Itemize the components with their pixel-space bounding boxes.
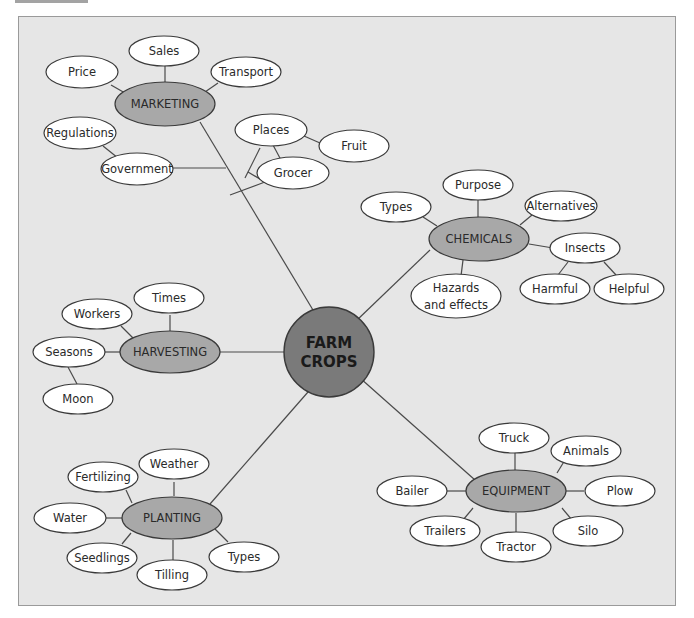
leaf-fruit[interactable]: Fruit (319, 130, 389, 162)
leaf-water[interactable]: Water (34, 503, 106, 533)
category-marketing-label: MARKETING (131, 97, 200, 111)
leaf-plow-label: Plow (607, 484, 634, 498)
leaf-insects[interactable]: Insects (550, 233, 620, 263)
leaf-price[interactable]: Price (46, 56, 118, 88)
root-label-line1: FARM (306, 334, 353, 352)
leaf-truck-label: Truck (498, 431, 530, 445)
leaf-weather-label: Weather (150, 457, 199, 471)
leaf-seasons-label: Seasons (45, 345, 93, 359)
leaf-trailers-label: Trailers (423, 524, 465, 538)
leaf-places[interactable]: Places (235, 114, 307, 146)
leaf-sales[interactable]: Sales (129, 36, 199, 66)
leaf-helpful-label: Helpful (609, 282, 650, 296)
leaf-silo-label: Silo (578, 524, 599, 538)
leaf-government-label: Government (101, 162, 173, 176)
leaf-hazards[interactable]: Hazards and effects (411, 274, 501, 318)
leaf-purpose[interactable]: Purpose (443, 170, 513, 200)
leaf-places-label: Places (253, 123, 290, 137)
leaf-planting-types-label: Types (227, 550, 260, 564)
leaf-planting-types[interactable]: Types (209, 542, 279, 572)
leaf-tilling[interactable]: Tilling (137, 560, 207, 590)
leaf-grocer-label: Grocer (274, 166, 313, 180)
leaf-animals-label: Animals (563, 444, 609, 458)
harvesting-branch: HARVESTING Workers Times Seasons Moon (33, 283, 220, 414)
leaf-trailers[interactable]: Trailers (410, 516, 480, 546)
equipment-branch: EQUIPMENT Truck Animals Bailer Plow Trai… (377, 423, 655, 562)
leaf-bailer-label: Bailer (395, 484, 428, 498)
chemicals-branch: CHEMICALS Types Purpose Alternatives Haz… (361, 170, 664, 318)
category-chemicals-label: CHEMICALS (446, 232, 513, 246)
leaf-chem-types[interactable]: Types (361, 192, 431, 222)
category-equipment-label: EQUIPMENT (482, 484, 551, 498)
leaf-plow[interactable]: Plow (585, 476, 655, 506)
marketing-branch: MARKETING Price Sales Transport Regulati… (44, 36, 389, 189)
leaf-water-label: Water (53, 511, 87, 525)
leaf-tilling-label: Tilling (154, 568, 189, 582)
leaf-seasons[interactable]: Seasons (33, 337, 105, 367)
leaf-sales-label: Sales (149, 44, 180, 58)
leaf-transport[interactable]: Transport (211, 57, 281, 87)
category-harvesting[interactable]: HARVESTING (120, 331, 220, 373)
leaf-alternatives-label: Alternatives (526, 199, 595, 213)
leaf-times[interactable]: Times (134, 283, 204, 313)
leaf-hazards-label-line1: Hazards (433, 281, 480, 295)
category-chemicals[interactable]: CHEMICALS (429, 217, 529, 261)
leaf-truck[interactable]: Truck (479, 423, 549, 453)
leaf-helpful[interactable]: Helpful (594, 274, 664, 304)
leaf-insects-label: Insects (565, 241, 606, 255)
leaf-alternatives[interactable]: Alternatives (525, 191, 597, 221)
category-equipment[interactable]: EQUIPMENT (466, 470, 566, 512)
leaf-price-label: Price (68, 65, 96, 79)
concept-map: MARKETING Price Sales Transport Regulati… (0, 0, 694, 618)
leaf-fertilizing-label: Fertilizing (75, 470, 131, 484)
leaf-regulations-label: Regulations (46, 126, 113, 140)
leaf-transport-label: Transport (218, 65, 273, 79)
leaf-times-label: Times (151, 291, 186, 305)
leaf-grocer[interactable]: Grocer (257, 157, 329, 189)
root-label-line2: CROPS (300, 353, 357, 371)
leaf-seedlings-label: Seedlings (74, 551, 130, 565)
leaf-tractor[interactable]: Tractor (481, 532, 551, 562)
leaf-workers-label: Workers (74, 307, 121, 321)
leaf-regulations[interactable]: Regulations (44, 117, 116, 149)
leaf-government[interactable]: Government (101, 153, 173, 185)
leaf-seedlings[interactable]: Seedlings (67, 543, 137, 573)
leaf-tractor-label: Tractor (495, 540, 536, 554)
leaf-moon-label: Moon (62, 392, 93, 406)
category-planting-label: PLANTING (143, 511, 201, 525)
leaf-harmful-label: Harmful (532, 282, 578, 296)
leaf-fertilizing[interactable]: Fertilizing (68, 462, 138, 492)
planting-branch: PLANTING Fertilizing Weather Water Seedl… (34, 449, 279, 590)
category-harvesting-label: HARVESTING (133, 345, 207, 359)
leaf-chem-types-label: Types (379, 200, 412, 214)
leaf-fruit-label: Fruit (341, 139, 367, 153)
category-planting[interactable]: PLANTING (122, 497, 222, 539)
leaf-workers[interactable]: Workers (62, 299, 132, 329)
root-farm-crops[interactable]: FARM CROPS (284, 307, 374, 397)
leaf-animals[interactable]: Animals (551, 436, 621, 466)
leaf-purpose-label: Purpose (455, 178, 501, 192)
leaf-harmful[interactable]: Harmful (520, 274, 590, 304)
leaf-silo[interactable]: Silo (553, 516, 623, 546)
leaf-bailer[interactable]: Bailer (377, 476, 447, 506)
category-marketing[interactable]: MARKETING (115, 82, 215, 126)
leaf-weather[interactable]: Weather (139, 449, 209, 479)
leaf-moon[interactable]: Moon (43, 384, 113, 414)
leaf-hazards-label-line2: and effects (424, 298, 488, 312)
